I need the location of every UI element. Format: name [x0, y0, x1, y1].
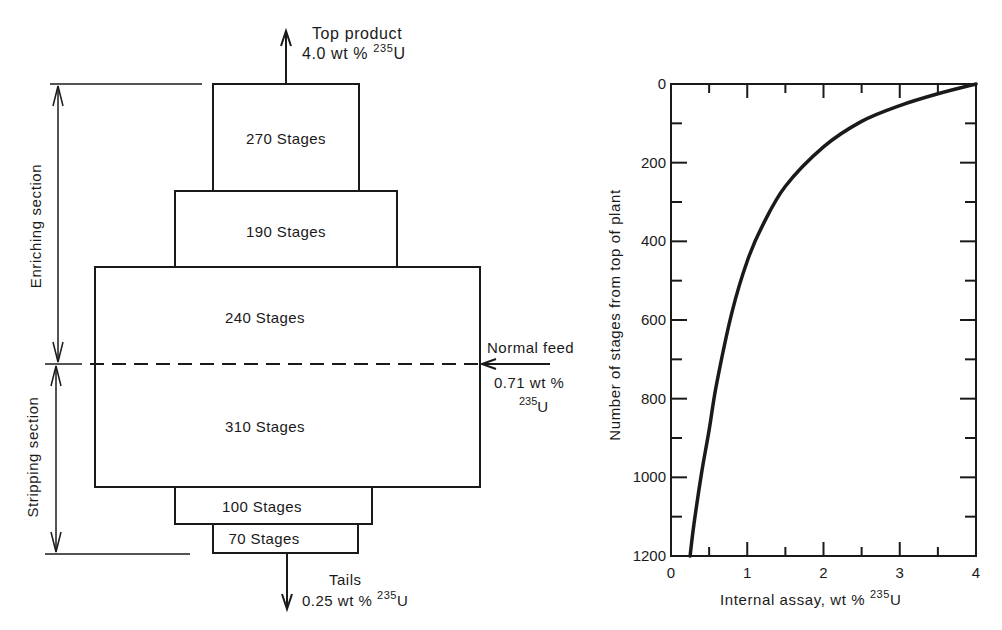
- stage-label-270: 270 Stages: [246, 130, 326, 147]
- top-product-label: Top product: [312, 25, 402, 42]
- normal-feed-isotope: 235U: [519, 395, 548, 415]
- y-axis-label: Number of stages from top of plant: [606, 189, 623, 441]
- normal-feed-arrow-icon: [482, 359, 550, 369]
- enrichment-figure: Top product 4.0 wt % 235U 270 Stages 190…: [0, 0, 1002, 630]
- assay-chart: 01234 020040060080010001200 Internal ass…: [606, 75, 980, 608]
- tails-assay: 0.25 wt % 235U: [302, 589, 408, 609]
- svg-text:3: 3: [896, 564, 904, 581]
- normal-feed-assay: 0.71 wt %: [494, 374, 564, 391]
- svg-text:200: 200: [641, 154, 666, 171]
- plot-frame: [671, 84, 976, 556]
- x-axis-tick-labels: 01234: [667, 564, 980, 581]
- stage-block-240-310: [95, 267, 480, 487]
- svg-text:1200: 1200: [633, 547, 666, 564]
- stripping-section-arrow-icon: [51, 366, 61, 552]
- normal-feed-label: Normal feed: [487, 339, 574, 356]
- x-axis-label: Internal assay, wt % 235U: [720, 588, 901, 608]
- tails-arrow-icon: [282, 554, 292, 609]
- svg-text:2: 2: [819, 564, 827, 581]
- top-product-assay: 4.0 wt % 235U: [302, 42, 406, 62]
- svg-text:0: 0: [667, 564, 675, 581]
- stage-label-190: 190 Stages: [246, 223, 326, 240]
- enriching-section-arrow-icon: [53, 86, 63, 362]
- assay-curve: [690, 84, 976, 556]
- y-axis-tick-labels: 020040060080010001200: [633, 75, 666, 564]
- stage-label-70: 70 Stages: [228, 530, 299, 547]
- svg-text:4: 4: [972, 564, 980, 581]
- svg-text:800: 800: [641, 390, 666, 407]
- y-axis-ticks: [671, 123, 976, 516]
- svg-text:0: 0: [658, 75, 666, 92]
- cascade-diagram: Top product 4.0 wt % 235U 270 Stages 190…: [24, 25, 574, 609]
- top-product-arrow-icon: [281, 31, 291, 84]
- tails-label: Tails: [329, 571, 362, 588]
- x-axis-ticks: [709, 84, 938, 556]
- enriching-section-label: Enriching section: [27, 164, 44, 288]
- stage-label-100: 100 Stages: [222, 498, 302, 515]
- stage-label-240: 240 Stages: [225, 309, 305, 326]
- svg-text:600: 600: [641, 311, 666, 328]
- svg-text:400: 400: [641, 232, 666, 249]
- stripping-section-label: Stripping section: [24, 396, 41, 517]
- svg-text:1000: 1000: [633, 468, 666, 485]
- stage-label-310: 310 Stages: [225, 418, 305, 435]
- svg-text:1: 1: [743, 564, 751, 581]
